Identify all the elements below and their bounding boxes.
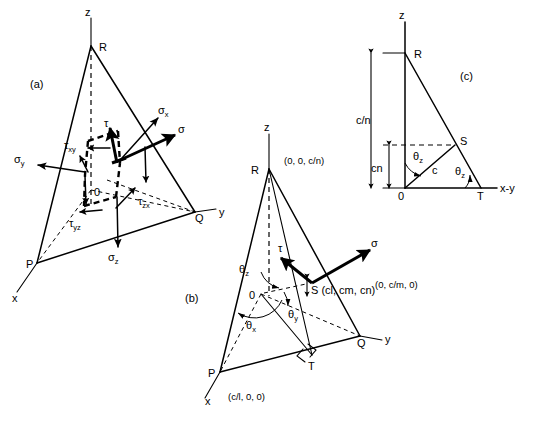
panel-a-skeleton-bottom [84, 197, 116, 206]
panel-c-vertex-R: R [414, 48, 422, 60]
panel-b-vertex-S: S (cl, cm, cn) [311, 284, 375, 296]
panel-b-z-axis-label: z [264, 121, 270, 133]
panel-b-vertex-T: T [308, 360, 315, 372]
panel-c-vertex-T: T [477, 190, 484, 202]
panel-a: z R Q y P x 0 (a) σx σy σz σ τ τxy τyz τ… [12, 6, 225, 304]
panel-c-vertex-S: S [460, 135, 467, 147]
panel-b-theta-z-arc [261, 272, 279, 288]
panel-a-sigma-y-label: σy [14, 153, 25, 168]
panel-b-vertex-R: R [251, 164, 259, 176]
panel-a-arrow-down-left [85, 176, 86, 204]
panel-b-sigma-label: σ [371, 237, 378, 249]
panel-b-tau-label: τ [278, 242, 283, 254]
panel-c-xy-axis-label: x-y [500, 182, 515, 194]
panel-a-edge-OP-hidden [37, 190, 91, 263]
panel-b-theta-y-label: θy [288, 308, 298, 323]
panel-a-tau-label: τ [104, 117, 109, 129]
panel-c-dim-cn-label: cn [371, 162, 383, 174]
panel-a-tau-yz-label: τyz [69, 217, 81, 232]
panel-b-line-OS-dashed [264, 284, 306, 293]
panel-b-origin-O: 0 [249, 289, 255, 301]
panel-b-caption: (b) [185, 292, 198, 304]
figure-container: z R Q y P x 0 (a) σx σy σz σ τ τxy τyz τ… [0, 0, 534, 435]
panel-b-theta-x-label: θx [246, 319, 256, 334]
panel-b-tau-arrow [281, 258, 312, 283]
panel-a-edge-RP [37, 46, 91, 263]
panel-b-theta-x-arc [238, 300, 282, 318]
panel-a-caption: (a) [30, 78, 43, 90]
panel-b-y-axis-label: y [385, 333, 391, 345]
panel-a-origin-O: 0 [94, 186, 100, 198]
panel-a-sigma-z-label: σz [108, 251, 119, 266]
panel-a-edge-PQ [37, 212, 195, 263]
panel-a-tau-yz-arrow [80, 210, 102, 212]
panel-a-sigma-arrow [118, 135, 175, 161]
panel-a-skeleton-diag [116, 163, 120, 197]
panel-a-x-axis-label: x [12, 292, 18, 304]
panel-c: z R S T 0 x-y (c) c/n cn c θz θz [356, 9, 515, 202]
panel-a-tau-zx-label: τzx [138, 195, 150, 210]
panel-c-origin-O: 0 [398, 190, 404, 202]
panel-b-edge-PQ [220, 336, 360, 372]
panel-b-edge-OT [261, 294, 312, 355]
panel-a-z-axis-label: z [85, 6, 91, 18]
panel-b-edge-RT [269, 169, 312, 355]
panel-b-theta-z-label: θz [239, 263, 249, 278]
panel-b-edge-OQ-hidden [261, 294, 360, 336]
panel-a-sigma-label: σ [178, 123, 185, 135]
panel-a-vertex-Q: Q [195, 212, 204, 224]
panel-a-vertex-P: P [26, 258, 33, 270]
panel-b-vertex-P: P [208, 367, 215, 379]
panel-b-edge-RQ [269, 169, 360, 336]
panel-b-vertex-Q: Q [357, 337, 366, 349]
panel-b-coord-Q: (0, c/m, 0) [375, 279, 418, 290]
panel-c-theta-z-upper-label: θz [413, 150, 423, 165]
panel-c-dim-c-over-n-label: c/n [356, 114, 371, 126]
panel-c-segment-c-label: c [432, 164, 438, 176]
panel-b-right-angle-T2 [308, 344, 316, 357]
panel-a-skeleton-right [118, 131, 120, 163]
panel-a-tau-xy-label: τxy [64, 139, 76, 154]
panel-c-theta-z-lower-label: θz [455, 165, 465, 180]
panel-a-tau-arrow [110, 128, 117, 163]
panel-a-arrow-down-right [145, 147, 146, 182]
panel-a-sigma-z-arrow [117, 197, 118, 247]
panel-c-theta-z-lower-arc [465, 175, 470, 188]
panel-b: z R (0, 0, c/n) Q y (0, c/m, 0) P x (c/l… [185, 121, 418, 407]
panel-c-caption: (c) [460, 70, 473, 82]
panel-c-z-axis-label: z [399, 9, 405, 21]
panel-a-line-inner [107, 180, 195, 212]
panel-b-coord-P: (c/l, 0, 0) [228, 391, 265, 402]
panel-b-x-axis-label: x [205, 395, 211, 407]
panel-a-tau-zx-arrow [116, 188, 135, 208]
panel-a-y-axis-label: y [219, 206, 225, 218]
figure-svg: z R Q y P x 0 (a) σx σy σz σ τ τxy τyz τ… [0, 0, 534, 435]
panel-a-vertex-R: R [99, 41, 107, 53]
panel-b-coord-R: (0, 0, c/n) [284, 155, 324, 166]
panel-a-sigma-x-label: σx [158, 104, 169, 119]
panel-b-sigma-arrow [312, 250, 370, 283]
